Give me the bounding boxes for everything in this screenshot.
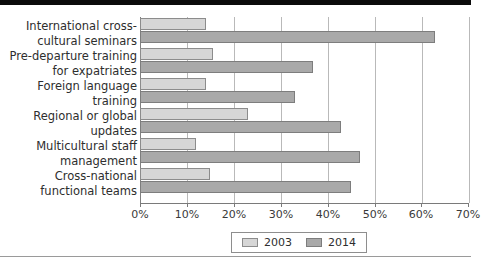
category-label: Multicultural staff management [36,139,137,168]
bar-chart: International cross- cultural seminars P… [0,5,471,255]
bottom-rule [0,256,471,257]
chart-legend: 2003 2014 [231,232,367,253]
category-label-line: updates [33,124,137,139]
x-tick-label: 40% [308,208,348,221]
x-tick-label: 10% [167,208,207,221]
bar-2003 [140,168,210,180]
x-tick [187,203,188,207]
category-label-line: for expatriates [10,64,137,79]
bar-2014 [140,61,313,73]
legend-label: 2014 [328,236,356,249]
gridline-50 [375,17,376,203]
x-tick [375,203,376,207]
category-label-line: functional teams [40,184,137,199]
x-tick [234,203,235,207]
bar-2014 [140,121,341,133]
x-axis-line [140,203,469,204]
x-tick [468,203,469,207]
legend-item-2003: 2003 [242,236,292,249]
category-label-line: Cross-national [40,169,137,184]
gridline-30 [281,17,282,203]
bar-2003 [140,18,206,30]
category-label-line: training [37,94,137,109]
category-label-line: Foreign language [37,79,137,94]
bar-2014 [140,31,435,43]
category-label-line: Pre-departure training [10,49,137,64]
category-label: International cross- cultural seminars [26,19,137,48]
legend-swatch-icon [242,238,258,247]
category-label: Cross-national functional teams [40,169,137,198]
gridline-70 [469,17,470,203]
x-tick-label: 60% [401,208,441,221]
x-tick-label: 70% [448,208,485,221]
gridline-60 [422,17,423,203]
legend-item-2014: 2014 [306,236,356,249]
x-tick-label: 30% [261,208,301,221]
x-tick [140,203,141,207]
bar-2014 [140,181,351,193]
x-tick-label: 0% [120,208,160,221]
legend-swatch-icon [306,238,322,247]
x-tick [281,203,282,207]
category-label-line: Multicultural staff [36,139,137,154]
category-label-line: International cross- [26,19,137,34]
bar-2003 [140,108,248,120]
bar-2014 [140,91,295,103]
bar-2003 [140,48,213,60]
x-tick-label: 20% [214,208,254,221]
legend-label: 2003 [264,236,292,249]
bar-2003 [140,78,206,90]
category-label: Pre-departure training for expatriates [10,49,137,78]
category-label-line: cultural seminars [26,34,137,49]
category-label: Regional or global updates [33,109,137,138]
category-label: Foreign language training [37,79,137,108]
x-tick [328,203,329,207]
x-tick [421,203,422,207]
bar-2003 [140,138,196,150]
gridline-40 [328,17,329,203]
category-label-line: management [36,154,137,169]
x-tick-label: 50% [355,208,395,221]
category-label-line: Regional or global [33,109,137,124]
bar-2014 [140,151,360,163]
